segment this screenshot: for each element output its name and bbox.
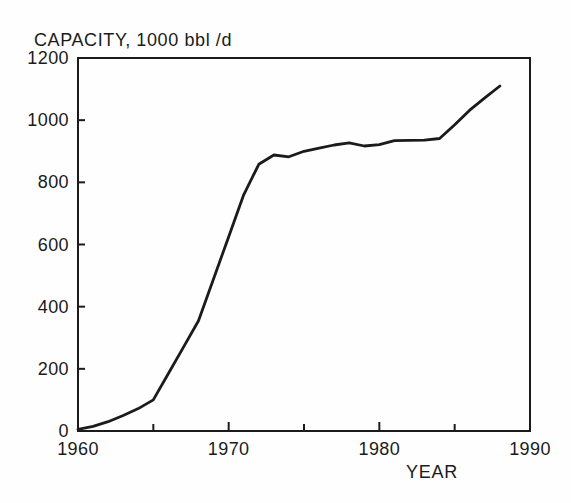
x-tick-label: 1980 bbox=[359, 439, 401, 459]
capacity-line-chart: CAPACITY, 1000 bbl /d YEAR 0200400600800… bbox=[0, 0, 571, 503]
y-tick-label: 400 bbox=[38, 297, 69, 317]
x-axis-label: YEAR bbox=[406, 462, 458, 482]
y-tick-label: 800 bbox=[38, 172, 69, 192]
y-tick-label: 0 bbox=[59, 421, 69, 441]
y-tick-label: 600 bbox=[38, 235, 69, 255]
plot-area: 0200400600800100012001960197019801990 bbox=[27, 48, 550, 459]
chart-title: CAPACITY, 1000 bbl /d bbox=[34, 30, 232, 50]
x-tick-label: 1990 bbox=[509, 439, 551, 459]
y-tick-label: 200 bbox=[38, 359, 69, 379]
chart-figure: CAPACITY, 1000 bbl /d YEAR 0200400600800… bbox=[0, 0, 571, 503]
axes-frame bbox=[78, 58, 530, 431]
y-tick-label: 1200 bbox=[27, 48, 69, 68]
capacity-series-line bbox=[78, 86, 500, 429]
x-tick-label: 1960 bbox=[57, 439, 99, 459]
x-tick-label: 1970 bbox=[208, 439, 250, 459]
y-tick-label: 1000 bbox=[27, 110, 69, 130]
